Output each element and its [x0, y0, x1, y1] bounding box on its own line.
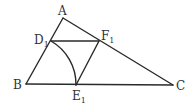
segment-ca [63, 18, 173, 85]
geometry-diagram: A B C D1 F1 E1 [0, 0, 194, 111]
label-a: A [57, 4, 67, 18]
triangle-abc [26, 18, 173, 85]
segment-bc [26, 84, 173, 85]
arc-d1e1 [51, 41, 76, 85]
segment-ab [26, 18, 63, 84]
label-f1: F1 [101, 29, 114, 45]
label-e1: E1 [72, 89, 86, 105]
label-d1: D1 [34, 33, 49, 49]
label-b: B [13, 78, 22, 92]
segment-f1e1 [76, 41, 99, 85]
label-c: C [176, 79, 185, 93]
